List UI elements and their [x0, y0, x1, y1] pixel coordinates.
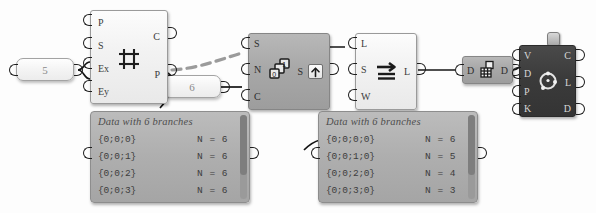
port-in-graft-S[interactable] — [241, 37, 250, 49]
number-param-6-value: 6 — [189, 81, 195, 93]
port-label-graft-in-2: C — [254, 92, 261, 102]
node-deconstruct-knob[interactable] — [547, 32, 560, 46]
port-in-shift-L[interactable] — [348, 37, 357, 49]
svg-text:0: 0 — [272, 71, 276, 78]
port-label-deconstruct-in-0: V — [524, 51, 531, 61]
port-in-slider5[interactable] — [9, 64, 18, 76]
table-row[interactable]: {0;0;3;0} N = 3 — [326, 182, 470, 199]
data-panel-left-title: Data with 6 branches — [98, 116, 242, 127]
port-in-shift-S[interactable] — [348, 63, 357, 75]
table-row[interactable]: {0;0;0} N = 6 — [98, 131, 242, 148]
port-label-grid-in-2: Ex — [98, 64, 109, 74]
panel-right-path-0: {0;0;0;0} — [326, 131, 375, 148]
panel-left-count-3: N = 6 — [197, 182, 242, 199]
panel-right-path-1: {0;0;1;0} — [326, 148, 375, 165]
panel-left-count-2: N = 6 — [197, 165, 242, 182]
panel-right-scrollbar[interactable] — [468, 115, 475, 199]
port-in-shift-W[interactable] — [348, 89, 357, 101]
port-out-graft-S[interactable] — [330, 63, 339, 75]
port-in-deconstruct-K[interactable] — [512, 103, 521, 115]
port-label-grid-out-0: C — [153, 32, 160, 42]
panel-right-count-1: N = 5 — [425, 148, 470, 165]
port-label-flatten-out-0: D — [501, 66, 508, 76]
port-out-panel-right[interactable] — [478, 147, 487, 159]
port-label-deconstruct-in-3: K — [524, 104, 531, 114]
node-flatten-component[interactable]: D D — [462, 56, 513, 84]
port-label-graft-out-0: S — [297, 67, 303, 77]
node-shift-component[interactable]: L S W L — [355, 33, 417, 110]
data-panel-right-title: Data with 6 branches — [326, 116, 470, 127]
node-grid-component[interactable]: P S Ex Ey C P — [90, 10, 168, 104]
target-dots-icon — [536, 69, 560, 93]
port-in-deconstruct-V[interactable] — [512, 49, 521, 61]
panel-left-count-1: N = 6 — [197, 148, 242, 165]
port-in-flatten-D[interactable] — [455, 64, 464, 76]
table-row[interactable]: {0;0;1;0} N = 5 — [326, 148, 470, 165]
port-out-slider5[interactable] — [74, 64, 83, 76]
flatten-icon — [478, 60, 498, 80]
port-out-deconstruct-L[interactable] — [576, 76, 585, 88]
port-in-grid-P[interactable] — [83, 14, 92, 26]
table-row[interactable]: {0;0;3} N = 6 — [98, 182, 242, 199]
port-out-grid-C[interactable] — [168, 27, 177, 39]
port-in-graft-N[interactable] — [241, 63, 250, 75]
table-row[interactable]: {0;0;2;0} N = 4 — [326, 165, 470, 182]
port-label-flatten-in-0: D — [467, 66, 474, 76]
data-panel-left[interactable]: Data with 6 branches {0;0;0} N = 6 {0;0;… — [90, 111, 250, 203]
port-label-shift-in-2: W — [361, 92, 370, 102]
panel-right-scroll-thumb[interactable] — [468, 115, 475, 175]
port-label-grid-in-3: Ey — [98, 87, 109, 97]
port-out-deconstruct-D[interactable] — [576, 103, 585, 115]
table-row[interactable]: {0;0;2} N = 6 — [98, 165, 242, 182]
port-label-grid-in-1: S — [98, 41, 104, 51]
port-in-deconstruct-P[interactable] — [512, 85, 521, 97]
up-arrow-button[interactable] — [308, 64, 323, 79]
port-in-deconstruct-D[interactable] — [512, 67, 521, 79]
port-out-slider6[interactable] — [221, 81, 230, 93]
port-label-grid-in-0: P — [98, 18, 104, 28]
shift-arrow-icon — [375, 61, 399, 83]
grasshopper-canvas[interactable]: 5 6 P S Ex Ey C P — [0, 0, 596, 213]
port-in-graft-C[interactable] — [241, 89, 250, 101]
port-label-shift-out-0: L — [404, 67, 410, 77]
node-graft-component[interactable]: S N C S 0 1 — [248, 33, 330, 110]
port-in-grid-Ex[interactable] — [83, 57, 92, 69]
port-label-graft-in-0: S — [254, 39, 260, 49]
port-out-deconstruct-C[interactable] — [576, 49, 585, 61]
data-panel-right[interactable]: Data with 6 branches {0;0;0;0} N = 6 {0;… — [318, 111, 478, 203]
port-label-deconstruct-in-2: P — [524, 87, 530, 97]
panel-left-scroll-thumb[interactable] — [240, 115, 247, 175]
port-in-panel-left[interactable] — [83, 147, 92, 159]
port-label-graft-in-1: N — [254, 65, 261, 75]
port-label-deconstruct-out-2: D — [564, 104, 571, 114]
grid-hash-icon — [118, 48, 140, 70]
port-in-grid-Ey[interactable] — [83, 80, 92, 92]
panel-left-scrollbar[interactable] — [240, 115, 247, 199]
panel-left-path-1: {0;0;1} — [98, 148, 136, 165]
table-row[interactable]: {0;0;1} N = 6 — [98, 148, 242, 165]
panel-right-count-2: N = 4 — [425, 165, 470, 182]
panel-left-count-0: N = 6 — [197, 131, 242, 148]
number-param-6[interactable]: 6 — [163, 75, 221, 98]
port-label-deconstruct-out-0: C — [564, 51, 571, 61]
port-out-shift-L[interactable] — [417, 63, 426, 75]
table-row[interactable]: {0;0;0;0} N = 6 — [326, 131, 470, 148]
tree-branch-icon: 0 1 — [268, 57, 294, 83]
port-label-shift-in-1: S — [361, 65, 367, 75]
port-label-shift-in-0: L — [361, 39, 367, 49]
port-in-grid-S[interactable] — [83, 37, 92, 49]
port-in-panel-right[interactable] — [311, 147, 320, 159]
node-deconstruct-component[interactable]: V D P K C L D — [519, 45, 576, 117]
panel-right-count-3: N = 3 — [425, 182, 470, 199]
port-label-deconstruct-out-1: L — [565, 78, 571, 88]
panel-left-path-3: {0;0;3} — [98, 182, 136, 199]
panel-right-path-2: {0;0;2;0} — [326, 165, 375, 182]
panel-left-path-2: {0;0;2} — [98, 165, 136, 182]
svg-text:1: 1 — [282, 61, 286, 68]
panel-right-count-0: N = 6 — [425, 131, 470, 148]
port-out-panel-left[interactable] — [250, 147, 259, 159]
number-param-5[interactable]: 5 — [16, 58, 74, 81]
port-label-grid-out-1: P — [154, 70, 160, 80]
panel-left-path-0: {0;0;0} — [98, 131, 136, 148]
port-label-deconstruct-in-1: D — [524, 69, 531, 79]
